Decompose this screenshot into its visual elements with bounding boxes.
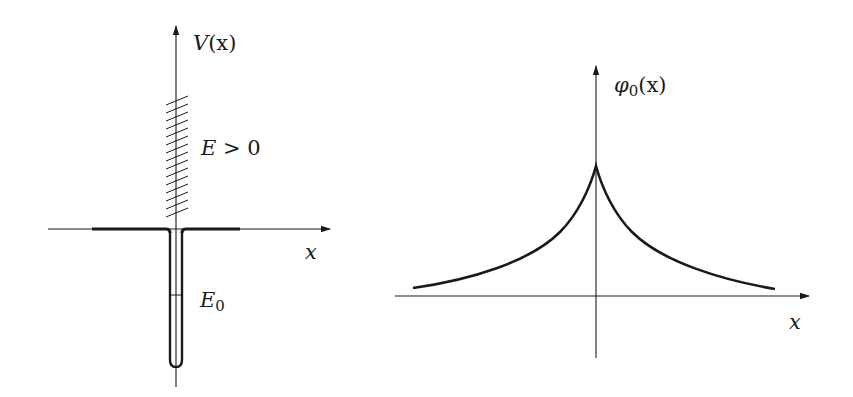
right-panel-wavefunction: φ0(x) x	[395, 66, 809, 358]
left-x-axis-label: x	[305, 240, 317, 264]
right-y-axis-label: φ0(x)	[614, 73, 667, 100]
continuum-hatching	[166, 96, 188, 217]
left-panel-potential: V(x) E > 0 x E0	[48, 26, 330, 387]
left-y-axis-label: V(x)	[193, 31, 236, 55]
bound-state-label: E0	[199, 288, 225, 315]
continuum-label: E > 0	[200, 136, 261, 160]
right-x-axis-label: x	[789, 310, 801, 334]
potential-rim	[92, 229, 240, 233]
wavefunction-curve	[413, 166, 775, 289]
figure-canvas: V(x) E > 0 x E0 φ0(x) x	[0, 0, 853, 397]
